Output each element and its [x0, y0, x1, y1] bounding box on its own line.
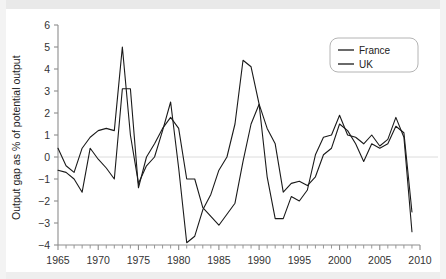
series-line-uk [58, 47, 412, 243]
x-tick-label: 1980 [167, 254, 191, 266]
chart-legend: FranceUK [330, 38, 418, 72]
y-tick-label: 0 [44, 151, 50, 163]
x-axis-ticks [58, 245, 420, 250]
x-tick-label: 1985 [207, 254, 231, 266]
y-tick-label: −2 [38, 195, 50, 207]
y-tick-label: −4 [38, 239, 50, 251]
x-axis-tick-labels: 1965197019751980198519901995200020052010 [46, 254, 432, 266]
y-tick-label: −3 [38, 217, 50, 229]
y-tick-label: 4 [44, 63, 50, 75]
y-tick-label: 5 [44, 41, 50, 53]
x-tick-label: 1965 [46, 254, 70, 266]
y-tick-label: −1 [38, 173, 50, 185]
x-tick-label: 2005 [368, 254, 392, 266]
x-tick-label: 1975 [127, 254, 151, 266]
y-tick-label: 1 [44, 129, 50, 141]
x-tick-label: 1995 [288, 254, 312, 266]
y-tick-label: 3 [44, 85, 50, 97]
legend-label-uk: UK [359, 59, 373, 70]
y-axis-tick-labels: 6543210−1−2−3−4 [38, 19, 50, 251]
data-series [58, 47, 412, 243]
x-tick-label: 2010 [408, 254, 432, 266]
line-chart: 6543210−1−2−3−4 196519701975198019851990… [0, 0, 446, 279]
x-tick-label: 1970 [87, 254, 111, 266]
y-axis-ticks [54, 25, 58, 245]
y-tick-label: 2 [44, 107, 50, 119]
x-tick-label: 1990 [247, 254, 271, 266]
chart-figure: 6543210−1−2−3−4 196519701975198019851990… [0, 0, 446, 279]
legend-label-france: France [359, 45, 391, 56]
y-axis-title: Output gap as % of potential output [10, 55, 22, 220]
x-tick-label: 2000 [328, 254, 352, 266]
y-tick-label: 6 [44, 19, 50, 31]
